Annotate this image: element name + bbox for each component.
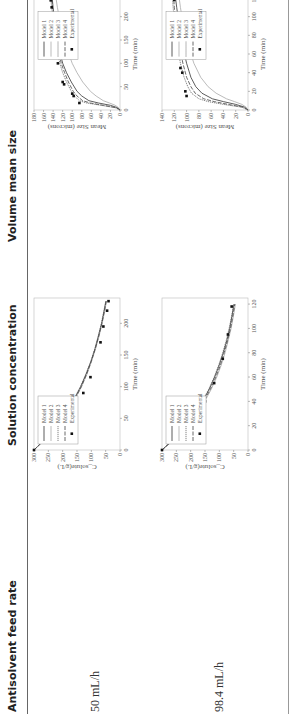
svg-text:0: 0 — [245, 113, 251, 116]
svg-text:50: 50 — [231, 453, 237, 459]
svg-text:40: 40 — [220, 113, 226, 119]
svg-text:20: 20 — [251, 423, 257, 429]
header-volume-mean-size: Volume mean size — [6, 130, 19, 242]
svg-text:0: 0 — [117, 453, 123, 456]
svg-text:250: 250 — [45, 453, 51, 462]
svg-text:Mean Size (microns): Mean Size (microns) — [175, 123, 234, 131]
svg-text:0: 0 — [123, 109, 129, 112]
svg-text:100: 100 — [123, 59, 129, 68]
svg-text:60: 60 — [208, 113, 214, 119]
svg-text:C_solute(g/L): C_solute(g/L) — [57, 463, 97, 471]
chart-concentration-50: 050100150200050100150200250300Time (min)… — [30, 292, 140, 472]
svg-text:100: 100 — [216, 453, 222, 462]
svg-text:150: 150 — [74, 453, 80, 462]
svg-text:40: 40 — [98, 113, 104, 119]
svg-text:200: 200 — [123, 319, 129, 328]
svg-text:Model 4: Model 4 — [62, 404, 68, 423]
svg-text:Model 2: Model 2 — [48, 20, 54, 39]
svg-text:100: 100 — [123, 382, 129, 391]
chart-size-50: 050100150200020406080100120140160180Time… — [30, 0, 140, 132]
svg-text:80: 80 — [196, 113, 202, 119]
chart-concentration-98: 020406080100120050100150200250300Time (m… — [158, 292, 268, 472]
chart-size-98: 020406080100120020406080100120140Time (m… — [158, 0, 268, 132]
svg-text:250: 250 — [173, 453, 179, 462]
svg-text:Model 3: Model 3 — [55, 404, 61, 423]
svg-text:Model 2: Model 2 — [176, 20, 182, 39]
svg-text:300: 300 — [159, 453, 165, 462]
svg-text:100: 100 — [251, 324, 257, 333]
svg-text:200: 200 — [188, 453, 194, 462]
svg-text:80: 80 — [79, 113, 85, 119]
svg-text:Model 1: Model 1 — [169, 20, 175, 39]
header-divider — [27, 0, 28, 714]
header-solution-concentration: Solution concentration — [6, 304, 19, 446]
svg-text:20: 20 — [251, 88, 257, 94]
svg-text:Model 4: Model 4 — [190, 20, 196, 39]
svg-text:40: 40 — [251, 70, 257, 76]
svg-text:Experimental: Experimental — [69, 393, 75, 423]
svg-text:Model 2: Model 2 — [48, 404, 54, 423]
svg-text:0: 0 — [117, 113, 123, 116]
svg-text:40: 40 — [251, 398, 257, 404]
svg-text:160: 160 — [41, 113, 47, 122]
row-label-50: 50 mL/h — [88, 671, 103, 712]
svg-text:50: 50 — [123, 84, 129, 90]
svg-text:Time (min): Time (min) — [259, 37, 267, 69]
svg-text:80: 80 — [251, 350, 257, 356]
svg-text:20: 20 — [233, 113, 239, 119]
svg-text:Model 4: Model 4 — [62, 20, 68, 39]
header-antisolvent-feed-rate: Antisolvent feed rate — [6, 580, 19, 712]
svg-text:120: 120 — [171, 113, 177, 122]
svg-text:20: 20 — [107, 113, 113, 119]
svg-text:Time (min): Time (min) — [131, 357, 139, 389]
svg-text:Model 1: Model 1 — [169, 404, 175, 423]
svg-text:60: 60 — [251, 374, 257, 380]
svg-text:100: 100 — [69, 113, 75, 122]
svg-text:Model 3: Model 3 — [183, 20, 189, 39]
svg-text:Model 3: Model 3 — [183, 404, 189, 423]
svg-text:140: 140 — [159, 113, 165, 122]
svg-text:Model 2: Model 2 — [176, 404, 182, 423]
svg-text:120: 120 — [60, 113, 66, 122]
svg-text:100: 100 — [88, 453, 94, 462]
svg-text:Model 4: Model 4 — [190, 404, 196, 423]
svg-text:Time (min): Time (min) — [131, 37, 139, 69]
row-label-98: 98.4 mL/h — [212, 662, 227, 712]
svg-text:Mean Size (microns): Mean Size (microns) — [47, 123, 106, 131]
svg-text:60: 60 — [251, 51, 257, 57]
svg-text:300: 300 — [31, 453, 37, 462]
svg-text:0: 0 — [251, 449, 257, 452]
svg-text:140: 140 — [50, 113, 56, 122]
svg-text:Experimental: Experimental — [197, 9, 203, 39]
svg-text:100: 100 — [251, 12, 257, 21]
svg-text:0: 0 — [245, 453, 251, 456]
svg-text:120: 120 — [251, 0, 257, 3]
svg-text:Model 1: Model 1 — [41, 20, 47, 39]
svg-text:50: 50 — [103, 453, 109, 459]
svg-text:120: 120 — [251, 300, 257, 309]
svg-text:0: 0 — [123, 449, 129, 452]
svg-text:Model 1: Model 1 — [41, 404, 47, 423]
svg-text:180: 180 — [31, 113, 37, 122]
svg-text:Experimental: Experimental — [69, 9, 75, 39]
svg-text:C_solute(g/L): C_solute(g/L) — [185, 463, 225, 471]
svg-text:200: 200 — [60, 453, 66, 462]
svg-text:50: 50 — [123, 415, 129, 421]
svg-text:200: 200 — [123, 12, 129, 21]
svg-text:150: 150 — [202, 453, 208, 462]
svg-text:Model 3: Model 3 — [55, 20, 61, 39]
svg-text:100: 100 — [184, 113, 190, 122]
svg-text:80: 80 — [251, 32, 257, 38]
svg-text:150: 150 — [123, 36, 129, 45]
rotated-page: Antisolvent feed rate Solution concentra… — [0, 0, 298, 714]
svg-text:0: 0 — [251, 109, 257, 112]
svg-text:60: 60 — [88, 113, 94, 119]
table-bottom-border — [288, 0, 289, 714]
svg-text:Experimental: Experimental — [197, 393, 203, 423]
svg-text:Time (min): Time (min) — [259, 357, 267, 389]
svg-text:150: 150 — [123, 351, 129, 360]
